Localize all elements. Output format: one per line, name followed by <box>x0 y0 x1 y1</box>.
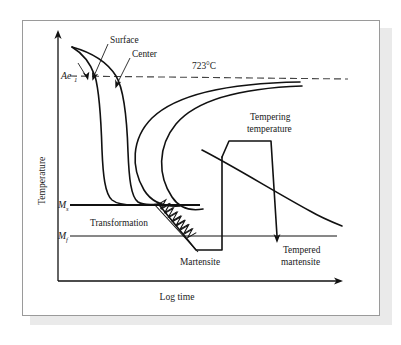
surface-cooling-curve <box>72 47 134 205</box>
transformation-label: Transformation <box>90 218 148 228</box>
center-leader-line <box>117 58 130 84</box>
surface-leader-line <box>94 44 108 76</box>
martensite-label: Martensite <box>180 257 220 267</box>
transformation-start-curve <box>135 82 300 206</box>
tempering-temperature-label-line1: Tempering <box>250 112 291 122</box>
leader-line-group <box>78 44 130 89</box>
mf-label-subscript: f <box>66 236 69 243</box>
transformation-finish-curve <box>162 86 302 210</box>
ae1-label-text: Ae <box>60 70 72 81</box>
mf-label: M f <box>57 230 69 243</box>
x-axis-label: Log time <box>160 291 195 302</box>
ae1-label: Ae 1 <box>60 70 77 83</box>
figure-root: Temperature Log time Ae 1 M s M f Surfac… <box>0 0 401 345</box>
y-axis-label: Temperature <box>36 157 47 205</box>
eutectoid-temperature-label: 723°C <box>192 61 216 71</box>
ttt-diagram-svg: Temperature Log time Ae 1 M s M f Surfac… <box>0 0 401 345</box>
tempering-temperature-label-line2: temperature <box>247 124 292 134</box>
ae1-label-subscript: 1 <box>74 76 77 83</box>
hatch-spine <box>154 204 198 252</box>
tempered-martensite-label-line1: Tempered <box>283 245 321 255</box>
tempered-martensite-label-line2: martensite <box>281 257 320 267</box>
ms-label-subscript: s <box>66 205 69 212</box>
center-label: Center <box>132 49 158 59</box>
ae1-723c-dashed-line <box>70 76 348 79</box>
ms-label: M s <box>57 199 69 212</box>
surface-label: Surface <box>110 35 139 45</box>
